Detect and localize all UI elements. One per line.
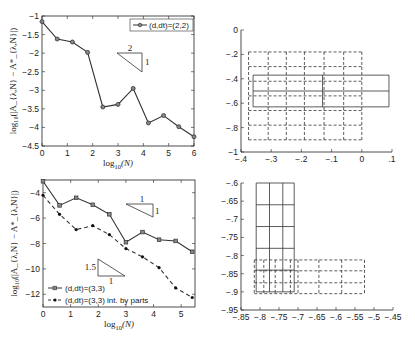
x-tick-label: 5 — [179, 309, 184, 319]
y-tick-label: −1 — [29, 11, 39, 21]
x-tick-label: 3 — [124, 309, 129, 319]
x-tick-label: 4 — [141, 148, 146, 158]
y-tick-label: −.6 — [226, 178, 238, 188]
chart-bottom-right: −.85−.8−.75−.7−.65−.6−.55−.5−.45−.6−.65−… — [221, 178, 401, 322]
y-tick-label: −4 — [29, 122, 39, 132]
chart-top-left: 0123456−1−1.5−2−2.5−3−3.5−4−4.5log10(N)l… — [8, 11, 197, 170]
y-tick-label: −.8 — [226, 251, 238, 261]
svg-text:1: 1 — [155, 206, 160, 216]
y-tick-label: −.65 — [221, 196, 238, 206]
y-tick-label: −4.5 — [22, 141, 39, 151]
x-tick-label: −.45 — [385, 312, 402, 322]
y-tick-label: −8 — [30, 239, 40, 249]
legend-label: (d,dt)=(3,3) int. by parts — [65, 296, 148, 305]
y-tick-label: −.2 — [226, 49, 238, 59]
slope-triangle — [117, 53, 142, 72]
y-tick-label: −12 — [26, 289, 41, 299]
y-tick-label: −.8 — [226, 123, 238, 133]
x-tick-label: −.6 — [330, 312, 342, 322]
legend-label: (d,dt)=(3,3) — [65, 284, 105, 293]
x-tick-label: 5 — [166, 148, 171, 158]
x-tick-label: −.7 — [292, 312, 304, 322]
y-tick-label: −.95 — [221, 305, 238, 315]
y-tick-label: −2 — [29, 48, 39, 58]
x-tick-label: −.75 — [271, 312, 288, 322]
x-axis-label: log10(N) — [103, 158, 133, 170]
x-tick-label: .1 — [388, 154, 395, 164]
y-tick-label: −6 — [30, 213, 40, 223]
x-axis-label: log10(N) — [104, 319, 134, 331]
y-tick-label: −.85 — [221, 269, 238, 279]
y-tick-label: −.6 — [226, 98, 238, 108]
x-tick-label: 3 — [116, 148, 121, 158]
svg-text:1: 1 — [109, 276, 114, 286]
x-tick-label: 6 — [192, 148, 197, 158]
y-tick-label: −.75 — [221, 232, 238, 242]
series-line — [43, 195, 192, 297]
y-tick-label: −.9 — [226, 287, 238, 297]
x-tick-label: 0 — [359, 154, 364, 164]
x-tick-label: 1 — [65, 148, 70, 158]
y-axis-label: log₁₀(|A_{λ,N} − A*_{λ,N}|) — [9, 190, 19, 296]
y-tick-label: −3 — [29, 85, 39, 95]
slope-triangle — [98, 259, 125, 276]
x-tick-label: −.5 — [368, 312, 380, 322]
svg-text:1: 1 — [145, 57, 150, 67]
x-tick-label: 2 — [96, 309, 101, 319]
x-tick-label: −.2 — [295, 154, 307, 164]
svg-text:1.5: 1.5 — [85, 262, 97, 272]
y-axis-label: log₁₀(|A_{λ,N} − A*_{λ,N}|) — [8, 28, 18, 134]
legend-label: (d,dt)=(2,2) — [149, 21, 189, 30]
x-tick-label: 0 — [40, 148, 45, 158]
y-tick-label: −.4 — [226, 74, 238, 84]
y-tick-label: −1 — [228, 147, 238, 157]
x-tick-label: −.55 — [347, 312, 364, 322]
y-tick-label: −1.5 — [22, 30, 39, 40]
y-tick-label: −2.5 — [22, 67, 39, 77]
y-tick-label: −3.5 — [22, 104, 39, 114]
x-tick-label: 2 — [90, 148, 95, 158]
svg-text:1: 1 — [140, 194, 145, 204]
x-tick-label: 0 — [41, 309, 46, 319]
chart-top-right: −.4−.3−.2−.10.10−.2−.4−.6−.8−1 — [226, 25, 396, 164]
x-tick-label: −.65 — [309, 312, 326, 322]
y-tick-label: 0 — [233, 25, 238, 35]
series-line — [42, 22, 194, 137]
x-tick-label: −.3 — [265, 154, 277, 164]
x-tick-label: 1 — [68, 309, 73, 319]
chart-bottom-left: 012345−4−6−8−10−12log10(N)log₁₀(|A_{λ,N}… — [9, 179, 195, 330]
x-tick-label: −.1 — [326, 154, 338, 164]
y-tick-label: −.7 — [226, 214, 238, 224]
y-tick-label: −4 — [30, 188, 40, 198]
axes-frame — [42, 16, 194, 146]
svg-text:2: 2 — [128, 43, 133, 53]
x-tick-label: 4 — [151, 309, 156, 319]
slope-triangle — [126, 204, 153, 217]
figure: 0123456−1−1.5−2−2.5−3−3.5−4−4.5log10(N)l… — [0, 0, 415, 342]
y-tick-label: −10 — [26, 264, 41, 274]
x-tick-label: −.8 — [254, 312, 266, 322]
